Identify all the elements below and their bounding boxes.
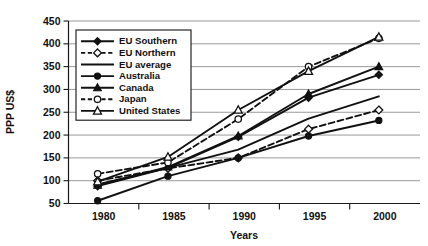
legend-label: EU Southern bbox=[119, 35, 177, 46]
x-axis-title: Years bbox=[230, 229, 258, 241]
legend-marker-open-circle-icon bbox=[94, 96, 100, 102]
y-tick-labels-group: 50100150200250300350400450 bbox=[43, 15, 61, 210]
series-australia bbox=[95, 117, 382, 203]
data-point-filled-circle-icon bbox=[165, 173, 171, 179]
data-point-open-circle-icon bbox=[235, 116, 241, 122]
y-tick-label: 100 bbox=[43, 174, 61, 186]
line-chart: 50100150200250300350400450 1980198519901… bbox=[0, 0, 428, 246]
data-point-filled-triangle-icon bbox=[375, 63, 383, 70]
data-point-open-diamond-icon bbox=[305, 125, 313, 133]
y-tick-label: 350 bbox=[43, 60, 61, 72]
legend-label: Japan bbox=[119, 93, 147, 104]
y-tick-label: 300 bbox=[43, 83, 61, 95]
legend-label: Canada bbox=[119, 82, 154, 93]
legend-label: United States bbox=[119, 105, 180, 116]
data-point-filled-circle-icon bbox=[235, 155, 241, 161]
legend-label: EU Northern bbox=[119, 47, 176, 58]
data-point-filled-circle-icon bbox=[95, 198, 101, 204]
x-tick-label: 2000 bbox=[373, 210, 397, 222]
legend-label: Australia bbox=[119, 70, 161, 81]
data-point-open-triangle-icon bbox=[164, 153, 172, 160]
y-tick-label: 450 bbox=[43, 15, 61, 27]
y-axis-title: PPP US$ bbox=[4, 90, 16, 134]
y-tick-label: 50 bbox=[49, 197, 61, 209]
data-point-filled-circle-icon bbox=[376, 117, 382, 123]
chart-legend: EU SouthernEU NorthernEU averageAustrali… bbox=[76, 30, 191, 120]
x-tick-label: 1995 bbox=[303, 210, 327, 222]
x-tick-label: 1980 bbox=[92, 210, 116, 222]
data-point-filled-diamond-icon bbox=[375, 71, 382, 78]
data-point-filled-circle-icon bbox=[305, 133, 311, 139]
x-tick-labels-group: 19801985199019952000 bbox=[92, 210, 397, 222]
x-tick-label: 1990 bbox=[233, 210, 257, 222]
y-tick-label: 250 bbox=[43, 106, 61, 118]
y-tick-marks-group bbox=[64, 21, 69, 204]
y-tick-label: 400 bbox=[43, 37, 61, 49]
y-tick-label: 200 bbox=[43, 129, 61, 141]
x-tick-label: 1985 bbox=[162, 210, 186, 222]
y-tick-label: 150 bbox=[43, 151, 61, 163]
legend-label: EU average bbox=[119, 59, 171, 70]
legend-marker-filled-circle-icon bbox=[94, 73, 100, 79]
chart-container: 50100150200250300350400450 1980198519901… bbox=[0, 0, 428, 246]
